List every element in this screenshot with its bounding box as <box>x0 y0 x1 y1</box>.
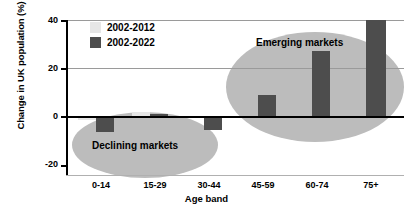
legend-swatch-icon-2002-2012 <box>90 22 101 33</box>
x-tick-label-15-29: 15-29 <box>128 180 182 190</box>
x-tick-label-30-44: 30-44 <box>182 180 236 190</box>
bar-0-14-2002-2022 <box>96 117 114 132</box>
zero-axis-line <box>66 116 404 118</box>
y-tick-label-20: 20 <box>48 64 58 73</box>
y-tick-label-0: 0 <box>53 112 58 121</box>
x-tick-label-60-74: 60-74 <box>290 180 344 190</box>
bar-60-74-2002-2022 <box>312 51 330 117</box>
legend-item-2002-2022: 2002-2022 <box>90 37 155 48</box>
x-tick-label-0-14: 0-14 <box>74 180 128 190</box>
y-tick-label-neg20: -20 <box>45 160 58 169</box>
bar-45-59-2002-2022 <box>258 95 276 117</box>
y-tick-20 <box>61 68 66 70</box>
bar-75plus-2002-2022 <box>366 20 386 117</box>
y-tick-neg20 <box>61 165 66 167</box>
legend-label-2002-2022: 2002-2022 <box>107 38 155 48</box>
chart-legend: 2002-2012 2002-2022 <box>90 22 155 48</box>
x-axis-title: Age band <box>0 193 413 204</box>
bar-chart: Change in UK population (%) Declining ma… <box>0 0 413 208</box>
legend-label-2002-2012: 2002-2012 <box>107 23 155 33</box>
x-axis-baseline <box>66 175 404 176</box>
y-axis-line <box>66 20 68 175</box>
x-tick-label-75plus: 75+ <box>344 180 398 190</box>
x-tick-label-45-59: 45-59 <box>236 180 290 190</box>
declining-markets-label: Declining markets <box>92 140 178 151</box>
gridline-40 <box>66 20 404 21</box>
bar-30-44-2002-2022 <box>204 117 222 130</box>
emerging-markets-label: Emerging markets <box>256 37 343 48</box>
gridline-20 <box>66 68 404 69</box>
y-tick-40 <box>61 20 66 22</box>
y-tick-label-40: 40 <box>48 16 58 25</box>
legend-item-2002-2012: 2002-2012 <box>90 22 155 33</box>
legend-swatch-icon-2002-2022 <box>90 37 101 48</box>
y-axis-title: Change in UK population (%) <box>15 0 26 146</box>
